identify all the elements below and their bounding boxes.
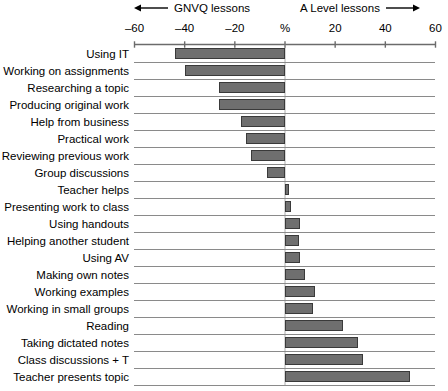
chart-row: Using AV	[0, 250, 448, 267]
bar	[241, 116, 285, 127]
chart-row: Working in small groups	[0, 301, 448, 318]
category-label: Practical work	[57, 132, 129, 146]
plot-area: Using ITWorking on assignmentsResearchin…	[0, 0, 448, 391]
category-label: Presenting work to class	[4, 200, 129, 214]
category-label: Working examples	[35, 285, 129, 299]
bar	[185, 65, 285, 76]
chart-row: Help from business	[0, 114, 448, 131]
bar	[285, 184, 289, 195]
category-label: Helping another student	[7, 234, 129, 248]
category-label: Researching a topic	[27, 81, 129, 95]
category-label: Class discussions + T	[18, 353, 129, 367]
category-label: Group discussions	[34, 166, 129, 180]
category-label: Reading	[86, 319, 129, 333]
chart-row: Reading	[0, 318, 448, 335]
chart-row: Teacher presents topic	[0, 369, 448, 386]
category-label: Making own notes	[36, 268, 129, 282]
chart-row: Reviewing previous work	[0, 148, 448, 165]
bar	[285, 201, 291, 212]
category-label: Using AV	[83, 251, 129, 265]
category-label: Reviewing previous work	[2, 149, 129, 163]
category-label: Using IT	[86, 47, 129, 61]
chart-row: Class discussions + T	[0, 352, 448, 369]
horizontal-diverging-bar-chart: GNVQ lessons A Level lessons –60–40–20%2…	[0, 0, 448, 391]
bar	[285, 218, 300, 229]
row-gridline	[134, 385, 435, 386]
chart-row: Working on assignments	[0, 63, 448, 80]
bar	[285, 252, 300, 263]
category-label: Taking dictated notes	[21, 336, 129, 350]
category-label: Working in small groups	[6, 302, 129, 316]
chart-row: Presenting work to class	[0, 199, 448, 216]
bar	[219, 82, 285, 93]
bar	[285, 337, 358, 348]
chart-row: Using IT	[0, 46, 448, 63]
chart-row: Practical work	[0, 131, 448, 148]
bar	[285, 371, 410, 382]
bar	[251, 150, 285, 161]
chart-row: Helping another student	[0, 233, 448, 250]
chart-row: Working examples	[0, 284, 448, 301]
category-label: Teacher helps	[57, 183, 129, 197]
chart-row: Using handouts	[0, 216, 448, 233]
bar	[175, 48, 285, 59]
category-label: Producing original work	[9, 98, 129, 112]
chart-row: Researching a topic	[0, 80, 448, 97]
category-label: Using handouts	[49, 217, 129, 231]
chart-row: Group discussions	[0, 165, 448, 182]
bar	[219, 99, 285, 110]
chart-row: Teacher helps	[0, 182, 448, 199]
bar	[267, 167, 285, 178]
category-label: Help from business	[31, 115, 129, 129]
chart-row: Producing original work	[0, 97, 448, 114]
category-label: Working on assignments	[3, 64, 129, 78]
bar	[285, 286, 315, 297]
bar	[246, 133, 285, 144]
bar	[285, 320, 343, 331]
chart-row: Taking dictated notes	[0, 335, 448, 352]
chart-row: Making own notes	[0, 267, 448, 284]
bar	[285, 235, 299, 246]
category-label: Teacher presents topic	[13, 370, 129, 384]
bar	[285, 303, 313, 314]
bar	[285, 354, 363, 365]
bar	[285, 269, 305, 280]
